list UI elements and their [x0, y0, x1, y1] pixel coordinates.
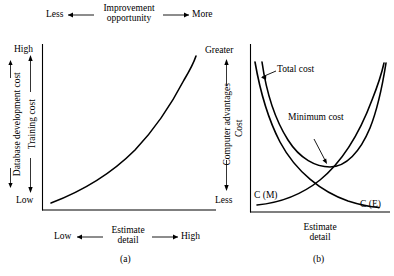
panel-b-x-axis-line1: Estimate	[303, 222, 336, 232]
panel-a-y-axis-top-label: High	[14, 44, 33, 55]
panel-b-x-axis-line2: detail	[309, 232, 330, 242]
panel-b-minimum-cost-leader	[314, 139, 327, 164]
panel-a-top-center-line2: opportunity	[107, 13, 151, 23]
panel-b-x-axis-label: Estimate detail	[296, 222, 344, 242]
figure-container: Less Improvement opportunity More Databa…	[0, 0, 394, 276]
panel-a-x-axis-center-line2: detail	[117, 235, 138, 245]
panel-b-cost-m-label: C (M)	[254, 190, 278, 201]
panel-a-right-axis-top-label: Greater	[205, 45, 233, 56]
panel-b-cost-e-label: C (E)	[360, 199, 381, 210]
panel-b-total-cost-label: Total cost	[277, 64, 314, 75]
panel-a-right-axis-label: Computer advantages	[222, 74, 233, 174]
panel-a-x-axis-left-label: Low	[54, 231, 71, 242]
panel-a-top-center-line1: Improvement	[103, 3, 154, 13]
panel-b-minimum-cost-label: Minimum cost	[288, 112, 344, 123]
panel-b-y-axis-label: Cost	[234, 108, 245, 148]
panel-a-x-axis-right-label: High	[181, 231, 200, 242]
panel-a-right-axis-bottom-label: Less	[215, 195, 232, 206]
panel-a-top-right-label: More	[192, 9, 213, 20]
panel-a-caption: (a)	[120, 254, 131, 265]
panel-a-x-axis-center-label: Estimate detail	[104, 225, 152, 245]
panel-a-y-axis-inner-label: Training cost	[27, 84, 38, 164]
panel-a-top-center-label: Improvement opportunity	[96, 3, 162, 23]
panel-a-y-axis-bottom-label: Low	[16, 195, 33, 206]
panel-b-curve-ce	[255, 62, 379, 208]
panel-b-caption: (b)	[313, 254, 324, 265]
panel-a-cost-curve	[51, 56, 196, 203]
panel-a-top-left-label: Less	[46, 9, 63, 20]
panel-a-y-axis-outer-label: Database development cost	[12, 66, 23, 182]
panel-a-x-axis-center-line1: Estimate	[111, 225, 144, 235]
